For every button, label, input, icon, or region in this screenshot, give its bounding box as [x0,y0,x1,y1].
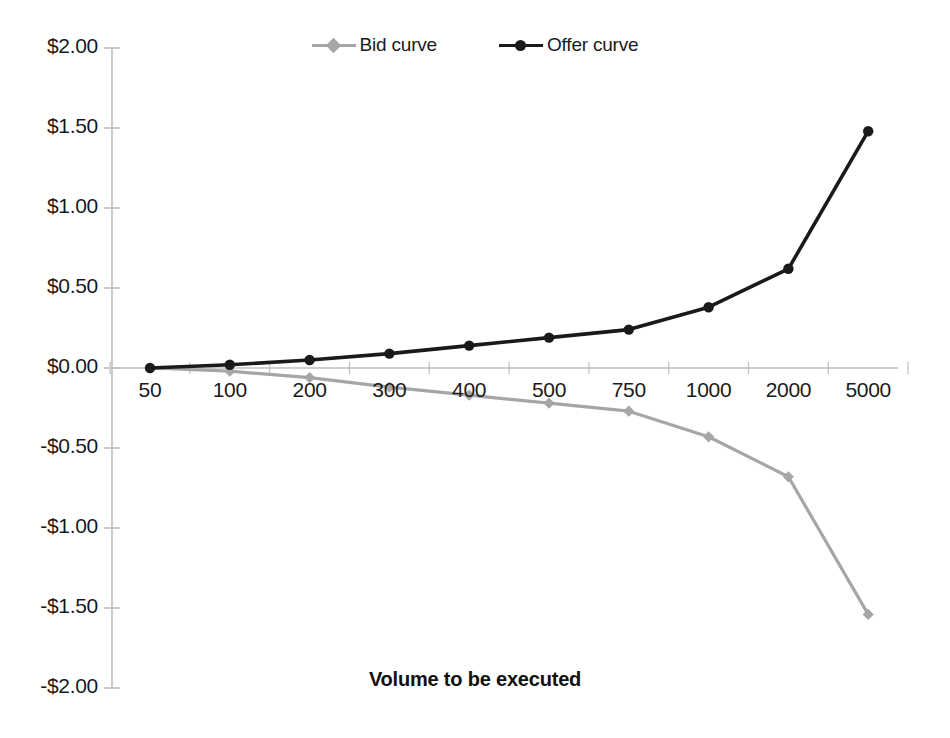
x-axis-tick-label: 50 [105,378,195,402]
x-axis-tick-label: 400 [424,378,514,402]
x-axis-tick-label: 300 [344,378,434,402]
y-axis-tick-label: $1.00 [0,194,98,218]
x-axis-tick-label: 1000 [664,378,754,402]
y-axis-tick-label: -$1.00 [0,514,98,538]
y-axis-tick-label: $2.00 [0,34,98,58]
axis-layer [104,48,908,688]
x-axis-tick-label: 750 [584,378,674,402]
x-axis-tick-label: 200 [265,378,355,402]
y-axis-tick-label: $0.50 [0,274,98,298]
plot-area [0,0,950,738]
y-axis-tick-label: $0.00 [0,354,98,378]
y-axis-tick-label: -$0.50 [0,434,98,458]
x-axis-tick-label: 5000 [823,378,913,402]
x-axis-title: Volume to be executed [0,668,950,691]
y-axis-tick-label: -$1.50 [0,594,98,618]
x-axis-tick-label: 2000 [743,378,833,402]
x-axis-tick-label: 500 [504,378,594,402]
y-axis-tick-label: $1.50 [0,114,98,138]
chart-container: Bid curve Offer curve $2.00$1.50$1.00$0.… [0,0,950,738]
x-axis-tick-label: 100 [185,378,275,402]
